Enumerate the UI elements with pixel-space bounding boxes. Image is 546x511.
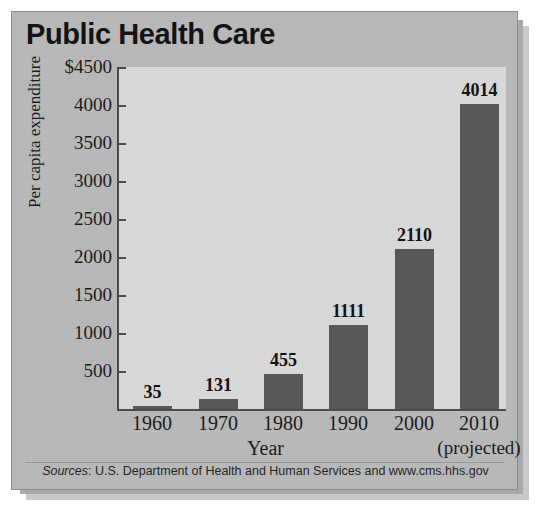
- y-tick-mark: [119, 371, 126, 373]
- bar-value-label: 2110: [397, 225, 432, 246]
- source-separator: :: [88, 464, 95, 478]
- bar-slot: 2110: [395, 67, 434, 409]
- y-tick-mark: [119, 295, 126, 297]
- bar-slot: 1111: [329, 67, 368, 409]
- y-tick-mark: [119, 219, 126, 221]
- y-tick-label: 2000: [22, 246, 119, 268]
- x-tick-label-2000: 2000: [394, 412, 434, 435]
- y-tick-mark: [119, 105, 126, 107]
- x-tick-label-2010: 2010: [459, 412, 499, 435]
- bar-value-label: 1111: [332, 301, 365, 322]
- bar-slot: 455: [264, 67, 303, 409]
- x-axis-line: [117, 409, 506, 411]
- x-tick-label-1980: 1980: [263, 412, 303, 435]
- page-title: Public Health Care: [26, 18, 275, 51]
- bar-slot: 35: [133, 67, 172, 409]
- bar-2000[interactable]: 2110: [395, 249, 434, 409]
- bar-value-label: 4014: [462, 80, 498, 101]
- y-tick-mark: [119, 333, 126, 335]
- bar-1980[interactable]: 455: [264, 374, 303, 409]
- bar-2010[interactable]: 4014: [460, 104, 499, 409]
- y-tick-label: 500: [22, 360, 119, 382]
- y-tick-mark: [119, 181, 126, 183]
- source-note: Sources: U.S. Department of Health and H…: [12, 464, 519, 478]
- y-tick-mark: [119, 143, 126, 145]
- source-divider: [25, 462, 504, 463]
- x-tick-label-1960: 1960: [132, 412, 172, 435]
- y-tick-label: 1000: [22, 322, 119, 344]
- bar-slot: 131: [199, 67, 238, 409]
- bar-1970[interactable]: 131: [199, 399, 238, 409]
- source-prefix: Sources: [42, 464, 88, 478]
- bar-slot: 4014: [460, 67, 499, 409]
- chart-card: Public Health Care 35 131 455: [11, 11, 518, 490]
- x-axis-title: Year: [12, 437, 519, 460]
- source-text: U.S. Department of Health and Human Serv…: [95, 464, 489, 478]
- bar-1990[interactable]: 1111: [329, 325, 368, 409]
- chart-screenshot: Public Health Care 35 131 455: [0, 0, 546, 511]
- x-tick-label-1990: 1990: [328, 412, 368, 435]
- x-tick-label-1970: 1970: [198, 412, 238, 435]
- y-tick-mark: [119, 257, 126, 259]
- plot-area: 35 131 455 1111 2110: [119, 67, 506, 409]
- bar-value-label: 455: [270, 350, 297, 371]
- y-tick-label: 1500: [22, 284, 119, 306]
- y-tick-mark: [119, 67, 126, 69]
- y-axis-title: Per capita expenditure: [25, 17, 45, 247]
- bar-value-label: 35: [144, 382, 162, 403]
- bar-value-label: 131: [205, 375, 232, 396]
